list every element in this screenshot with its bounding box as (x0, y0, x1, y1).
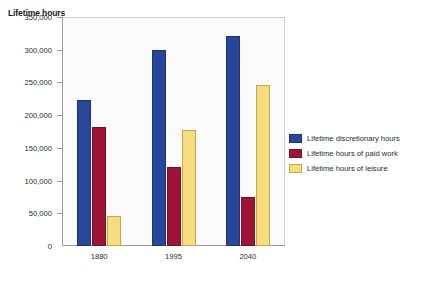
legend-item[interactable]: Lifetime hours of paid work (289, 146, 400, 160)
legend-item[interactable]: Lifetime hours of leisure (289, 161, 400, 175)
y-axis-tick-label: 150,000 (25, 143, 52, 152)
legend-swatch-icon (289, 164, 302, 173)
bar (92, 127, 106, 246)
legend-item-label: Lifetime discretionary hours (307, 134, 400, 143)
bars-container (62, 17, 285, 246)
x-axis-tick-label: 2040 (239, 252, 256, 261)
chart-legend: Lifetime discretionary hoursLifetime hou… (289, 131, 400, 176)
bar (77, 100, 91, 246)
bar (152, 50, 166, 246)
y-axis-tick-label: 100,000 (25, 176, 52, 185)
legend-item-label: Lifetime hours of leisure (307, 164, 388, 173)
y-axis-tick-label: 250,000 (25, 78, 52, 87)
legend-swatch-icon (289, 134, 302, 143)
bar (182, 130, 196, 246)
bar (167, 167, 181, 246)
bar (226, 36, 240, 246)
legend-swatch-icon (289, 149, 302, 158)
bar (107, 216, 121, 246)
y-axis-tick-label: 200,000 (25, 111, 52, 120)
bar (241, 197, 255, 246)
y-axis-tick-label: 300,000 (25, 45, 52, 54)
x-axis-tick-label: 1995 (165, 252, 182, 261)
x-axis-tick-label: 1880 (91, 252, 108, 261)
legend-item-label: Lifetime hours of paid work (307, 149, 398, 158)
bar-chart: Lifetime hours 050,000100,000150,000200,… (0, 0, 426, 282)
y-axis-tick-label: 50,000 (29, 209, 52, 218)
bar (256, 85, 270, 246)
y-axis-tick-label: 0 (48, 242, 52, 251)
y-axis-tick-label: 350,000 (25, 13, 52, 22)
legend-item[interactable]: Lifetime discretionary hours (289, 131, 400, 145)
